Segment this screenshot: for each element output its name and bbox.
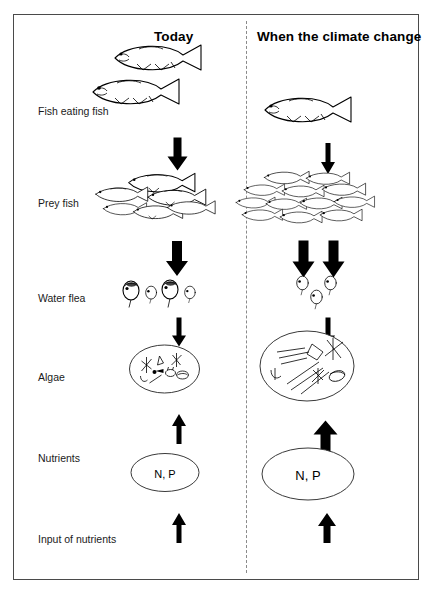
algae-oval-today [165,369,202,395]
column-header-climate: When the climate change [257,29,421,44]
arrow-down-prey-to-flea-today [177,259,189,277]
column-divider [246,21,247,573]
arrow-up-input-to-nutrients-today [179,528,187,544]
arrow-up-nutrients-to-algae-today [179,429,187,445]
nutrients-oval-label-today: N, P [154,468,175,480]
arrow-up-input-to-nutrients-climate [327,528,337,544]
nutrients-oval-today: N, P [165,473,201,494]
row-label-water-flea: Water flea [38,292,85,304]
water-flea-group-today [162,295,204,312]
prey-fish-school-today [151,203,215,234]
row-label-nutrients: Nutrients [38,452,80,464]
fish-eating-fish-group-today [149,76,217,114]
arrow-down-prey-to-flea-climate-left [293,241,315,278]
algae-oval-climate [307,366,357,404]
fish-eating-fish-group-climate [305,109,359,127]
prey-fish-school-climate [298,202,366,234]
diagram-frame: Today When the climate change Fish eatin… [13,14,419,580]
nutrients-oval-climate: N, P [308,474,356,502]
water-flea-group-climate [318,294,346,313]
arrow-down-predator-to-prey-today [178,155,189,172]
nutrients-oval-label-climate: N, P [295,468,320,483]
row-label-input-of-nutrients: Input of nutrients [38,533,116,545]
arrow-down-prey-to-flea-climate-right [323,241,345,278]
row-label-prey-fish: Prey fish [38,197,79,209]
row-label-algae: Algae [38,371,65,383]
